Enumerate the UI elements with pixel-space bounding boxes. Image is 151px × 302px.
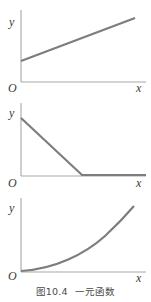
- chart-panel-convex-increasing: y x O: [0, 190, 151, 282]
- caption-number: 图10.4: [36, 286, 68, 297]
- x-axis-label: x: [135, 81, 142, 95]
- x-axis-label: x: [135, 176, 142, 190]
- figure-container: y x O y x O y x O 图10.4一元函数: [0, 0, 151, 302]
- y-axis-label: y: [8, 201, 15, 215]
- origin-label: O: [8, 269, 17, 282]
- figure-caption: 图10.4一元函数: [0, 284, 151, 298]
- chart-panel-increasing-linear: y x O: [0, 0, 151, 95]
- y-axis-label: y: [8, 15, 15, 29]
- data-curve: [21, 206, 134, 271]
- chart-panel-decreasing-piecewise: y x O: [0, 95, 151, 190]
- increasing-linear-svg: y x O: [0, 0, 151, 95]
- caption-text: 一元函数: [75, 286, 116, 297]
- origin-label: O: [8, 176, 17, 190]
- convex-increasing-svg: y x O: [0, 190, 151, 282]
- x-axis-label: x: [135, 271, 142, 282]
- data-line: [21, 118, 146, 175]
- origin-label: O: [8, 81, 17, 95]
- data-line: [21, 18, 135, 61]
- y-axis-label: y: [8, 106, 15, 120]
- decreasing-piecewise-svg: y x O: [0, 95, 151, 190]
